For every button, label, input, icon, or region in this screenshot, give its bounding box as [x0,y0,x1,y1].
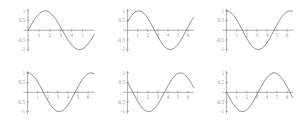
y-tick-label: -1 [21,46,26,52]
y-tick-label: -0.5 [17,98,26,104]
y-tick-label: 0.5 [118,79,125,85]
y-tick-label: 0.5 [118,17,125,23]
y-tick-label: 1 [23,8,26,14]
x-tick-label: 1 [136,32,139,38]
y-tick-label: -0.5 [216,98,225,104]
x-tick-label: 3 [256,32,259,38]
plot-panel: 12345610.5-0.5-1 [199,0,299,62]
x-tick-label: 5 [81,32,84,38]
plot-svg: 12345610.5-0.5-1 [199,0,299,62]
y-tick-label: -1 [120,108,125,114]
plot-panel: 12345610.5-0.5-1 [0,62,100,124]
y-tick-label: 1 [222,69,225,75]
plot-svg: 12345610.5-0.5-1 [199,62,299,124]
plot-panel: 12345610.5-0.5-1 [199,62,299,124]
y-tick-label: 0.5 [19,17,26,23]
x-tick-label: 1 [236,32,239,38]
y-tick-label: -1 [21,108,26,114]
x-tick-label: 6 [286,32,289,38]
y-tick-label: 1 [122,8,125,14]
x-tick-label: 2 [146,32,149,38]
y-tick-label: 1 [122,69,125,75]
x-tick-label: 3 [156,93,159,99]
y-tick-label: -1 [220,108,225,114]
plot-svg: 1234510.5-0.5-1 [0,0,100,62]
y-tick-label: -0.5 [17,37,26,43]
x-tick-label: 1 [136,93,139,99]
x-tick-label: 3 [57,93,60,99]
x-tick-label: 1 [236,93,239,99]
plot-panel: 1234510.5-0.5-1 [0,0,100,62]
plot-svg: 12345610.5-0.5-1 [100,62,200,124]
y-tick-label: 1 [22,69,25,75]
y-tick-label: 1 [222,8,225,14]
x-tick-label: 3 [60,32,63,38]
x-tick-label: 6 [186,32,189,38]
plot-panel: 12345610.5-0.5-1 [100,0,200,62]
x-tick-label: 1 [36,93,39,99]
y-tick-label: -1 [120,46,125,52]
y-tick-label: 0.5 [218,79,225,85]
x-tick-label: 4 [70,32,73,38]
x-tick-label: 4 [166,32,169,38]
y-tick-label: -0.5 [117,98,126,104]
y-tick-label: 0.5 [218,17,225,23]
x-tick-label: 1 [38,32,41,38]
x-tick-label: 5 [276,32,279,38]
y-tick-label: 0.5 [19,79,26,85]
y-tick-label: -0.5 [117,37,126,43]
x-tick-label: 4 [266,93,269,99]
x-tick-label: 4 [266,32,269,38]
plot-svg: 12345610.5-0.5-1 [100,0,200,62]
x-tick-label: 2 [146,93,149,99]
x-tick-label: 4 [67,93,70,99]
plot-panel: 12345610.5-0.5-1 [100,62,200,124]
y-tick-label: -1 [220,46,225,52]
x-tick-label: 5 [77,93,80,99]
plot-svg: 12345610.5-0.5-1 [0,62,100,124]
x-tick-label: 5 [276,93,279,99]
plot-grid: 1234510.5-0.5-1 12345610.5-0.5-1 1234561… [0,0,299,123]
x-tick-label: 2 [246,93,249,99]
x-tick-label: 6 [87,93,90,99]
x-tick-label: 2 [49,32,52,38]
x-tick-label: 6 [186,93,189,99]
x-tick-label: 4 [166,93,169,99]
x-tick-label: 5 [176,93,179,99]
y-tick-label: -0.5 [216,37,225,43]
x-tick-label: 5 [176,32,179,38]
x-tick-label: 6 [286,93,289,99]
